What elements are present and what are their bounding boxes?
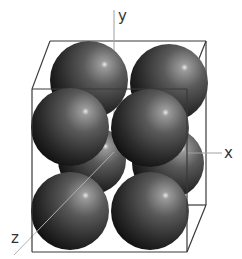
sphere [111,172,189,250]
sphere [31,88,109,166]
y-axis-label: y [118,7,127,25]
z-axis-label: z [11,229,19,247]
sphere [111,89,189,167]
sphere [31,172,109,250]
x-axis-label: x [224,144,233,162]
unit-cell-diagram: y x z [0,0,242,259]
